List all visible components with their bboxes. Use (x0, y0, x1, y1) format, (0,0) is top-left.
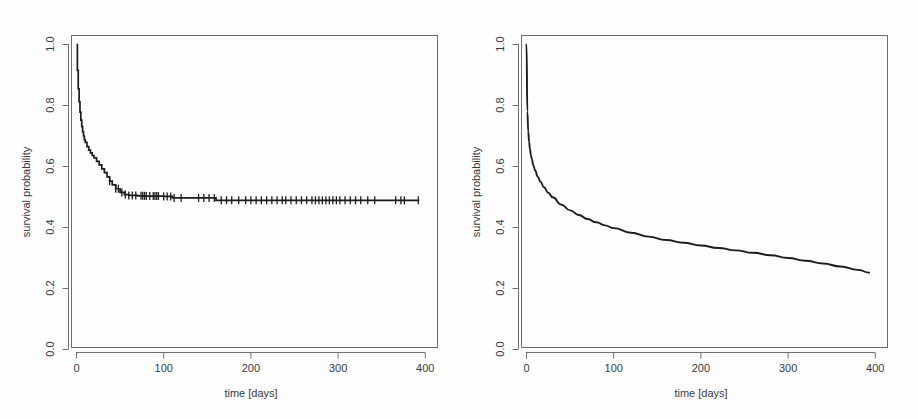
left-y-tick-label-0.6: 0.6 (44, 158, 56, 173)
left-y-tick-label-0.4: 0.4 (44, 219, 56, 234)
right-x-tick-label-200: 200 (692, 362, 710, 374)
survival-figure: 1.0 0.8 0.6 0.4 0.2 0.0 survival probabi… (0, 0, 918, 419)
left-panel-svg: 1.0 0.8 0.6 0.4 0.2 0.0 survival probabi… (0, 0, 459, 419)
right-y-tick-label-0.4: 0.4 (494, 219, 506, 234)
left-x-tick-label-100: 100 (155, 362, 173, 374)
left-y-tick-label-0.8: 0.8 (44, 97, 56, 112)
right-x-tick-label-0: 0 (523, 362, 529, 374)
left-x-tick-label-0: 0 (73, 362, 79, 374)
right-x-tick-label-300: 300 (779, 362, 797, 374)
left-y-axis-title: survival probability (20, 146, 32, 237)
left-y-tick-label-0.0: 0.0 (44, 341, 56, 356)
left-y-tick-label-0.2: 0.2 (44, 280, 56, 295)
left-panel-kaplan-meier: 1.0 0.8 0.6 0.4 0.2 0.0 survival probabi… (0, 0, 459, 419)
right-x-tick-label-100: 100 (605, 362, 623, 374)
right-y-tick-label-0.2: 0.2 (494, 280, 506, 295)
right-y-tick-label-0.8: 0.8 (494, 97, 506, 112)
right-panel-smooth-survival: 1.0 0.8 0.6 0.4 0.2 0.0 survival probabi… (459, 0, 918, 419)
left-x-tick-label-400: 400 (416, 362, 434, 374)
right-x-tick-label-400: 400 (866, 362, 884, 374)
right-y-axis-title: survival probability (470, 146, 482, 237)
left-x-tick-label-300: 300 (329, 362, 347, 374)
right-panel-svg: 1.0 0.8 0.6 0.4 0.2 0.0 survival probabi… (459, 0, 918, 419)
right-y-tick-label-1.0: 1.0 (494, 36, 506, 51)
right-y-tick-label-0.6: 0.6 (494, 158, 506, 173)
left-x-tick-label-200: 200 (242, 362, 260, 374)
left-y-tick-label-1.0: 1.0 (44, 36, 56, 51)
right-panel-background (459, 0, 918, 419)
right-y-tick-label-0.0: 0.0 (494, 341, 506, 356)
left-x-axis-title: time [days] (224, 387, 277, 399)
right-x-axis-title: time [days] (674, 387, 727, 399)
